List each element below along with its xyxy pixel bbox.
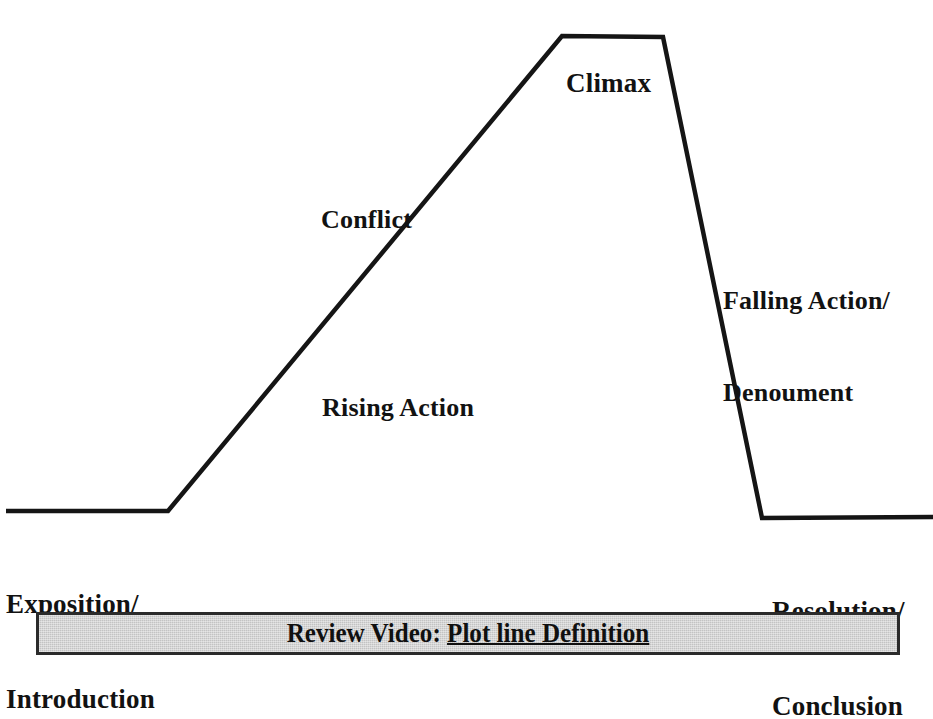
label-falling-action-line2: Denoument xyxy=(723,378,890,409)
review-video-link[interactable]: Plot line Definition xyxy=(447,618,649,648)
label-falling-action-line1: Falling Action/ xyxy=(723,286,890,317)
label-rising-action: Rising Action xyxy=(322,332,474,485)
label-climax-text: Climax xyxy=(566,68,651,100)
review-video-prefix: Review Video: xyxy=(287,618,447,648)
review-video-banner-text: Review Video: Plot line Definition xyxy=(287,618,650,649)
label-rising-action-text: Rising Action xyxy=(322,393,474,424)
label-conflict: Conflict xyxy=(321,144,412,297)
label-falling-action: Falling Action/ Denoument xyxy=(723,225,890,470)
label-climax: Climax xyxy=(566,4,651,163)
label-exposition-line2: Introduction xyxy=(6,684,155,716)
label-resolution-line2: Conclusion xyxy=(772,691,905,719)
label-conflict-text: Conflict xyxy=(321,205,412,236)
review-video-banner[interactable]: Review Video: Plot line Definition xyxy=(36,612,900,655)
